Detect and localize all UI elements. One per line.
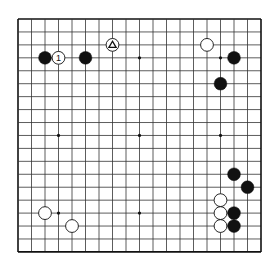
black-stone-icon [228,168,241,181]
black-stone-icon [39,51,52,64]
go-board[interactable]: 1 [0,0,279,267]
white-stone[interactable] [214,220,227,233]
white-stone[interactable] [39,207,52,220]
black-stone[interactable] [228,168,241,181]
star-point-icon [138,212,141,215]
white-stone-icon [39,207,52,220]
black-stone[interactable] [241,181,254,194]
black-stone-icon [228,207,241,220]
white-stone[interactable] [201,38,214,51]
star-point-icon [57,212,60,215]
white-stone[interactable] [106,38,119,51]
black-stone-icon [228,220,241,233]
black-stone-icon [79,51,92,64]
black-stone[interactable] [39,51,52,64]
white-stone-icon [214,220,227,233]
star-point-icon [138,134,141,137]
move-number-label: 1 [56,53,61,63]
black-stone-icon [228,51,241,64]
black-stone[interactable] [228,220,241,233]
black-stone[interactable] [228,207,241,220]
black-stone[interactable] [228,51,241,64]
white-stone[interactable]: 1 [52,51,65,64]
white-stone[interactable] [214,207,227,220]
star-point-icon [138,56,141,59]
black-stone[interactable] [214,77,227,90]
star-point-icon [219,56,222,59]
white-stone-icon [214,207,227,220]
star-point-icon [219,134,222,137]
white-stone[interactable] [66,220,79,233]
black-stone-icon [214,77,227,90]
black-stone[interactable] [79,51,92,64]
white-stone-icon [66,220,79,233]
white-stone[interactable] [214,194,227,207]
black-stone-icon [241,181,254,194]
star-point-icon [57,134,60,137]
white-stone-icon [214,194,227,207]
white-stone-icon [201,38,214,51]
